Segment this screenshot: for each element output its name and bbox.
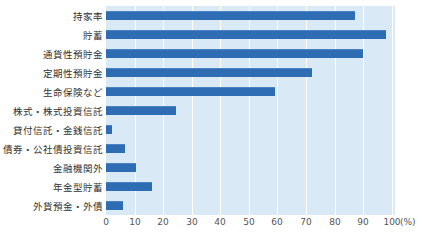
x-tick-label: 50 xyxy=(243,217,254,227)
bar xyxy=(106,87,275,96)
category-labels: 持家率貯蓄通貨性預貯金定期性預貯金生命保険など株式・株式投資信託貸付信託・金銭信… xyxy=(0,6,103,215)
x-axis-unit-label: (%) xyxy=(400,217,416,227)
category-label: 年金型貯蓄 xyxy=(0,177,103,196)
bar xyxy=(106,144,125,153)
x-tick-label: 60 xyxy=(271,217,282,227)
bar-row xyxy=(106,82,395,101)
bar xyxy=(106,182,152,191)
category-label: 金融機関外 xyxy=(0,158,103,177)
bar xyxy=(106,30,386,39)
x-tick-label: 10 xyxy=(129,217,140,227)
category-label: 通貨性預貯金 xyxy=(0,44,103,63)
bar xyxy=(106,201,123,210)
x-tick-label: 90 xyxy=(357,217,368,227)
x-tick-label: 80 xyxy=(329,217,340,227)
category-label: 債券・公社債投資信託 xyxy=(0,139,103,158)
category-label: 貸付信託・金銭信託 xyxy=(0,120,103,139)
bar-rows xyxy=(106,6,395,215)
category-label: 貯蓄 xyxy=(0,25,103,44)
x-tick-label: 0 xyxy=(103,217,109,227)
bar-row xyxy=(106,196,395,215)
x-tick-label: 20 xyxy=(157,217,168,227)
bar-chart: 持家率貯蓄通貨性預貯金定期性預貯金生命保険など株式・株式投資信託貸付信託・金銭信… xyxy=(0,0,424,239)
bar xyxy=(106,11,355,20)
bar-row xyxy=(106,120,395,139)
bar xyxy=(106,106,176,115)
bar xyxy=(106,49,363,58)
bar-row xyxy=(106,6,395,25)
x-tick-label: 40 xyxy=(214,217,225,227)
category-label: 生命保険など xyxy=(0,82,103,101)
x-axis: (%) 0102030405060708090100 xyxy=(0,217,424,233)
bar-row xyxy=(106,25,395,44)
bar-row xyxy=(106,44,395,63)
plot-area xyxy=(106,6,395,215)
bar xyxy=(106,163,136,172)
category-label: 持家率 xyxy=(0,6,103,25)
x-tick-label: 70 xyxy=(300,217,311,227)
x-tick-label: 30 xyxy=(186,217,197,227)
bar-row xyxy=(106,177,395,196)
bar-row xyxy=(106,101,395,120)
bar xyxy=(106,68,312,77)
category-label: 定期性預貯金 xyxy=(0,63,103,82)
x-tick-label: 100 xyxy=(383,217,400,227)
bar-row xyxy=(106,139,395,158)
bar-row xyxy=(106,63,395,82)
category-label: 株式・株式投資信託 xyxy=(0,101,103,120)
bar xyxy=(106,125,112,134)
bar-row xyxy=(106,158,395,177)
category-label: 外貨預金・外債 xyxy=(0,196,103,215)
